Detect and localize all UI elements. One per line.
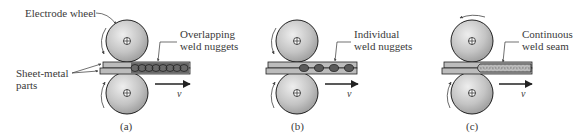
rotation-arrow-icon [101,28,106,54]
caption-b: (b) [291,120,304,133]
overlapping-label-2: weld nuggets [180,40,238,52]
rotation-arrow-icon [460,15,485,18]
lower-sheet [266,68,357,74]
electrode-wheel-label: Electrode wheel [25,7,96,19]
velocity-label: v [177,88,182,99]
individual-label: Individual [354,28,399,40]
rotation-arrow-icon [101,82,105,108]
caption-a: (a) [120,120,133,133]
caption-c: (c) [466,120,479,133]
panel-c: v Continuous weld seam (c) [442,15,573,133]
rotation-arrow-icon [447,82,451,108]
individual-label-2: weld nuggets [354,40,412,52]
panel-a: v Electrode wheel Sheet-metal parts Over… [16,7,238,133]
velocity-label: v [521,88,526,99]
panel-b: v Individual weld nuggets (b) [266,20,412,133]
overlapping-label: Overlapping [180,28,235,40]
seam-welding-diagram: v Electrode wheel Sheet-metal parts Over… [0,0,588,137]
velocity-label: v [347,88,352,99]
rotation-arrow-icon [271,82,275,108]
rotation-arrow-icon [271,28,276,54]
continuous-label: Continuous [522,28,573,40]
sheet-metal-label-2: parts [16,79,37,91]
upper-sheet [268,62,357,68]
continuous-label-2: weld seam [522,40,569,52]
sheet-metal-label: Sheet-metal [16,67,69,79]
